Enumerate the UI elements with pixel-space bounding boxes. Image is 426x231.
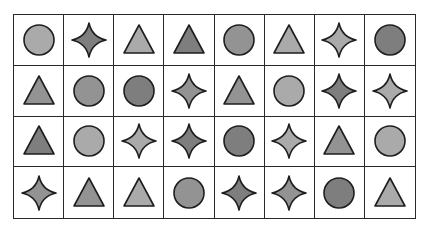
grid-cell — [114, 66, 164, 117]
triangle-icon — [21, 73, 57, 109]
grid-cell — [365, 15, 415, 66]
grid-cell — [265, 167, 315, 218]
star-icon — [121, 123, 157, 159]
grid-cell — [14, 66, 64, 117]
grid-cell — [114, 117, 164, 168]
star-icon — [171, 123, 207, 159]
triangle-icon — [372, 175, 408, 211]
grid-cell — [215, 117, 265, 168]
grid-cell — [215, 15, 265, 66]
circle-icon — [121, 73, 157, 109]
circle-icon — [221, 22, 257, 58]
star-icon — [21, 175, 57, 211]
star-icon — [271, 175, 307, 211]
star-icon — [221, 175, 257, 211]
star-icon — [321, 22, 357, 58]
grid-cell — [215, 66, 265, 117]
circle-icon — [321, 175, 357, 211]
grid-cell — [365, 66, 415, 117]
shape-grid — [13, 14, 416, 219]
circle-icon — [71, 123, 107, 159]
circle-icon — [271, 73, 307, 109]
grid-cell — [315, 15, 365, 66]
grid-cell — [365, 117, 415, 168]
grid-cell — [114, 167, 164, 218]
triangle-icon — [121, 175, 157, 211]
star-icon — [271, 123, 307, 159]
star-icon — [71, 22, 107, 58]
grid-cell — [315, 66, 365, 117]
grid-cell — [164, 15, 214, 66]
triangle-icon — [21, 123, 57, 159]
star-icon — [321, 73, 357, 109]
grid-cell — [315, 167, 365, 218]
star-icon — [372, 73, 408, 109]
star-icon — [171, 73, 207, 109]
circle-icon — [71, 73, 107, 109]
triangle-icon — [71, 175, 107, 211]
grid-cell — [315, 117, 365, 168]
circle-icon — [372, 123, 408, 159]
triangle-icon — [321, 123, 357, 159]
grid-cell — [164, 66, 214, 117]
triangle-icon — [221, 73, 257, 109]
grid-cell — [64, 117, 114, 168]
grid-cell — [265, 117, 315, 168]
grid-cell — [164, 167, 214, 218]
grid-cell — [215, 167, 265, 218]
grid-cell — [164, 117, 214, 168]
triangle-icon — [171, 22, 207, 58]
grid-cell — [265, 15, 315, 66]
grid-cell — [14, 117, 64, 168]
grid-cell — [14, 167, 64, 218]
circle-icon — [21, 22, 57, 58]
grid-cell — [114, 15, 164, 66]
grid-cell — [14, 15, 64, 66]
grid-cell — [64, 167, 114, 218]
grid-cell — [64, 15, 114, 66]
grid-cell — [365, 167, 415, 218]
circle-icon — [171, 175, 207, 211]
grid-cell — [64, 66, 114, 117]
triangle-icon — [121, 22, 157, 58]
triangle-icon — [271, 22, 307, 58]
grid-cell — [265, 66, 315, 117]
circle-icon — [372, 22, 408, 58]
circle-icon — [221, 123, 257, 159]
